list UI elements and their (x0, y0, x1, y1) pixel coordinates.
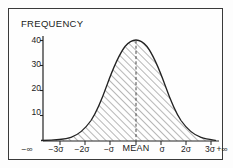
x-tick-label-plus-2-sigma: 2σ (181, 145, 191, 154)
x-tick-label-plus-1-sigma: σ (159, 145, 164, 154)
x-tick-label-minus-2-sigma: −2σ (75, 145, 90, 154)
x-tick-label-mean: MEAN (123, 144, 150, 153)
curve-fill-area (41, 40, 216, 141)
figure-border: FREQUENCY 40 30 20 10 (8, 8, 223, 160)
x-tick-label-positive-infinity: +∞ (216, 145, 227, 154)
x-tick-label-minus-3-sigma: −3σ (49, 145, 64, 154)
bell-curve-graphic (9, 9, 224, 161)
x-tick-label-negative-infinity: −∞ (21, 145, 32, 154)
x-tick-label-minus-1-sigma: −σ (104, 145, 114, 154)
normal-distribution-plot: FREQUENCY 40 30 20 10 (9, 9, 224, 161)
figure-screenshot: FREQUENCY 40 30 20 10 (0, 0, 233, 168)
x-tick-label-plus-3-sigma: 3σ (205, 145, 215, 154)
